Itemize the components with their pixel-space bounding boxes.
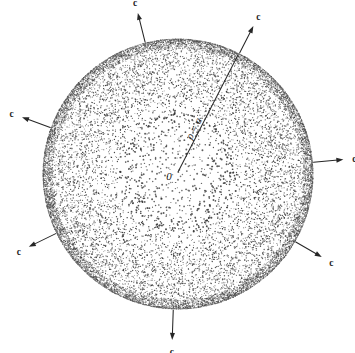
arrow-label-c: c	[170, 347, 174, 353]
arrow-label-c: c	[256, 12, 260, 22]
arrow-label-c: c	[17, 247, 21, 257]
figure-container: ccccccc 0ρ = a	[0, 0, 355, 353]
arrow-label-c: c	[10, 109, 14, 119]
arrow-label-c: c	[329, 258, 333, 268]
arrow-label-c: c	[133, 0, 137, 8]
origin-label: 0	[166, 170, 172, 182]
sphere-diagram: ccccccc 0ρ = a	[0, 0, 355, 353]
